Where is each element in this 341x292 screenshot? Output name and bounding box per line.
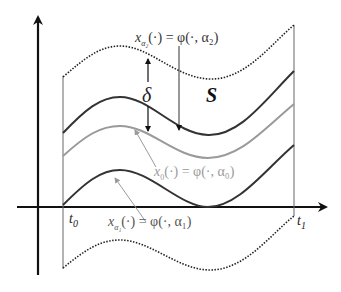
t1-label: t1	[297, 214, 306, 231]
alpha1-sub: α₁	[114, 223, 121, 232]
alpha1-rhs: (·) = φ(·, α₁)	[121, 214, 191, 229]
t0-sub: 0	[73, 218, 78, 229]
diagram-canvas: xα₂(·) = φ(·, α₂) δ S x0(·) = φ(·, α₀) x…	[0, 0, 341, 292]
alpha1-trajectory-label: xα₁(·) = φ(·, α₁)	[108, 215, 191, 229]
alpha0-rhs: (·) = φ(·, α₀)	[164, 164, 234, 179]
alpha0-sub: 0	[160, 173, 164, 182]
alpha2-trajectory-label: xα₂(·) = φ(·, α₂)	[135, 31, 218, 45]
alpha2-sub: α₂	[141, 39, 148, 48]
set-s-label: S	[206, 85, 217, 105]
t0-label: t0	[69, 212, 78, 229]
t1-sub: 1	[301, 220, 306, 231]
alpha2-rhs: (·) = φ(·, α₂)	[148, 30, 218, 45]
alpha0-trajectory-label: x0(·) = φ(·, α₀)	[154, 165, 234, 179]
delta-label: δ	[142, 85, 151, 105]
